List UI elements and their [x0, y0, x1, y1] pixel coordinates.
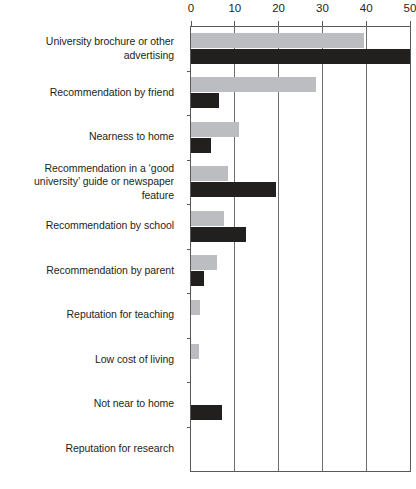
x-tick-label: 20 [272, 2, 285, 14]
bar-series-1 [191, 166, 228, 181]
category-tick [187, 160, 191, 161]
category-label: Recommendation by school [0, 220, 174, 234]
bar-series-1 [191, 33, 364, 48]
x-gridline [234, 26, 235, 471]
category-tick [187, 115, 191, 116]
bar-series-1 [191, 211, 224, 226]
bar-series-2 [191, 405, 222, 420]
x-tick-mark [410, 21, 411, 26]
category-tick [187, 293, 191, 294]
bar-series-1 [191, 300, 200, 315]
category-tick [187, 249, 191, 250]
category-tick [187, 204, 191, 205]
x-tick-label: 10 [228, 2, 241, 14]
bar-series-1 [191, 77, 316, 92]
x-tick-mark [322, 21, 323, 26]
category-label: Not near to home [0, 398, 174, 412]
category-label: Low cost of living [0, 353, 174, 367]
x-gridline [278, 26, 279, 471]
x-tick-mark [234, 21, 235, 26]
category-label: Reputation for teaching [0, 309, 174, 323]
bar-series-2 [191, 93, 219, 108]
x-tick-label: 0 [188, 2, 194, 14]
category-tick [187, 382, 191, 383]
plot-area: 01020304050 [190, 26, 411, 472]
category-label: University brochure or other advertising [0, 35, 174, 62]
bar-series-1 [191, 344, 199, 359]
x-tick-mark [366, 21, 367, 26]
bar-series-2 [191, 138, 211, 153]
category-label-column: University brochure or other advertising… [0, 0, 182, 489]
category-tick [187, 427, 191, 428]
bar-series-1 [191, 122, 239, 137]
x-tick-label: 30 [316, 2, 329, 14]
x-tick-mark [278, 21, 279, 26]
x-axis-line [190, 26, 411, 27]
category-label: Recommendation by parent [0, 264, 174, 278]
category-label: Reputation for research [0, 442, 174, 456]
x-gridline [366, 26, 367, 471]
bar-series-2 [191, 182, 276, 197]
category-label: Nearness to home [0, 131, 174, 145]
x-tick-label: 40 [360, 2, 373, 14]
bar-series-2 [191, 49, 410, 64]
x-tick-label: 50 [404, 2, 416, 14]
category-tick [187, 71, 191, 72]
bar-series-2 [191, 271, 204, 286]
bar-series-2 [191, 227, 246, 242]
x-tick-mark [191, 21, 192, 26]
category-tick [187, 338, 191, 339]
x-gridline [322, 26, 323, 471]
category-label: Recommendation by friend [0, 86, 174, 100]
category-label: Recommendation in a ‘good university’ gu… [0, 162, 174, 203]
bar-series-1 [191, 255, 217, 270]
bar-chart: University brochure or other advertising… [0, 0, 416, 489]
